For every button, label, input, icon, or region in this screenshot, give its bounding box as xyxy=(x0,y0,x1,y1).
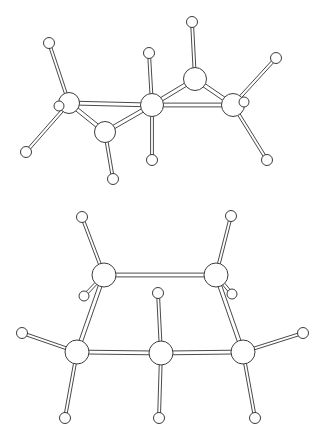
bond-C2-C3 xyxy=(111,108,145,130)
bond-rail xyxy=(87,350,151,351)
carbon-atom-C2 xyxy=(204,263,228,287)
bond-rail xyxy=(87,354,151,355)
bond-rail xyxy=(160,296,162,343)
hydrogen-atom-H9 xyxy=(298,328,309,339)
bond-rail xyxy=(111,108,143,126)
carbon-atom-C2 xyxy=(95,122,116,143)
bond-rail xyxy=(49,47,65,96)
hydrogen-atom-H1 xyxy=(44,38,55,49)
bond-C3-H5 xyxy=(25,333,69,350)
bond-group-bottom xyxy=(25,219,301,415)
bond-rail xyxy=(108,140,114,176)
hydrogen-atom-H2 xyxy=(79,291,89,301)
bond-C5-H8 xyxy=(238,59,275,99)
bond-rail xyxy=(191,25,193,69)
bond-rail xyxy=(77,105,142,107)
bond-C5-H10 xyxy=(243,361,255,415)
hydrogen-atom-H6 xyxy=(147,155,158,166)
bond-rail xyxy=(51,46,67,95)
bond-C3-C4 xyxy=(159,82,188,102)
hydrogen-atom-H10 xyxy=(250,413,261,424)
hydrogen-atom-H9 xyxy=(239,97,249,107)
bond-rail xyxy=(240,61,275,99)
bond-C4-H7 xyxy=(157,296,162,343)
atom-group-top xyxy=(21,17,282,185)
bond-rail xyxy=(161,363,163,415)
hydrogen-atom-H10 xyxy=(262,155,273,166)
bond-rail xyxy=(220,220,232,266)
bond-C4-H7 xyxy=(191,25,196,70)
bond-C4-C5 xyxy=(202,83,227,102)
bond-C5-H9 xyxy=(252,333,300,351)
hydrogen-atom-H5 xyxy=(17,328,28,339)
bond-rail xyxy=(148,56,150,95)
hydrogen-atom-H4 xyxy=(108,174,119,185)
bond-rail xyxy=(243,362,253,415)
bond-rail xyxy=(77,101,142,103)
bond-C3-C5 xyxy=(161,103,223,107)
bond-rail xyxy=(157,296,159,343)
carbon-atom-C3 xyxy=(65,340,89,364)
bond-rail xyxy=(159,82,186,98)
bond-rail xyxy=(253,335,301,350)
bond-rail xyxy=(246,361,256,414)
bond-C1-C3 xyxy=(77,101,143,106)
hydrogen-atom-H3 xyxy=(226,211,237,222)
hydrogen-atom-H5 xyxy=(144,48,155,59)
bond-C1-H1 xyxy=(82,220,102,267)
bond-rail xyxy=(113,111,145,129)
bond-rail xyxy=(252,333,300,348)
hydrogen-atom-H3 xyxy=(21,147,32,158)
bond-rail xyxy=(26,333,69,348)
bond-rail xyxy=(67,362,77,415)
hydrogen-atom-H6 xyxy=(60,413,71,424)
molecular-model-figure xyxy=(0,0,323,442)
bond-rail xyxy=(171,350,233,351)
bond-C2-H3 xyxy=(217,219,231,266)
bond-C4-H8 xyxy=(158,363,162,415)
bond-rail xyxy=(194,25,196,69)
bond-C1-C2 xyxy=(74,107,99,129)
hydrogen-atom-H8 xyxy=(154,413,165,424)
bond-rail xyxy=(29,110,64,150)
hydrogen-atom-H2 xyxy=(54,101,64,111)
panel-top-molecule xyxy=(21,17,282,185)
carbon-atom-C4 xyxy=(184,68,207,91)
bond-rail xyxy=(77,107,100,126)
bond-C1-C2 xyxy=(114,273,206,277)
bond-rail xyxy=(202,86,225,102)
bond-C3-H6 xyxy=(64,361,76,415)
carbon-atom-C1 xyxy=(92,263,116,287)
hydrogen-atom-H8 xyxy=(271,53,282,64)
bond-rail xyxy=(239,112,266,156)
bond-C3-H6 xyxy=(151,114,154,156)
bond-rail xyxy=(27,108,62,148)
bond-C3-C4 xyxy=(87,350,151,355)
bond-C1-H3 xyxy=(27,108,64,150)
bond-C5-H10 xyxy=(237,112,267,158)
hydrogen-atom-H7 xyxy=(187,17,198,28)
bond-rail xyxy=(158,363,160,415)
bond-rail xyxy=(105,140,111,176)
bond-C4-C5 xyxy=(171,350,233,355)
bond-rail xyxy=(171,354,233,355)
bond-C1-H1 xyxy=(49,46,68,96)
bond-rail xyxy=(74,110,97,129)
carbon-atom-C4 xyxy=(149,341,173,365)
panel-bottom-molecule xyxy=(17,211,309,424)
bond-rail xyxy=(84,220,101,266)
hydrogen-atom-H4 xyxy=(227,289,237,299)
bond-rail xyxy=(161,85,188,101)
bond-rail xyxy=(217,219,229,265)
bond-rail xyxy=(82,221,99,267)
bond-C2-H4 xyxy=(105,140,114,176)
molecule-canvas xyxy=(0,0,323,442)
carbon-atom-C5 xyxy=(231,340,255,364)
hydrogen-atom-H7 xyxy=(153,288,164,299)
atom-group-bottom xyxy=(17,211,309,424)
hydrogen-atom-H1 xyxy=(77,212,88,223)
bond-rail xyxy=(25,335,68,350)
carbon-atom-C3 xyxy=(141,94,164,117)
bond-rail xyxy=(204,83,227,99)
bond-rail xyxy=(151,56,153,95)
